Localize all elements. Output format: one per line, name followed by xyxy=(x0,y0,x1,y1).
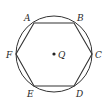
center-label-q: Q xyxy=(58,50,66,60)
center-point xyxy=(52,52,55,55)
vertex-label-f: F xyxy=(5,50,13,60)
vertex-label-a: A xyxy=(23,13,31,23)
vertex-label-e: E xyxy=(26,89,34,99)
hexagon-circle-diagram: A B C D E F Q xyxy=(0,0,104,102)
vertex-label-c: C xyxy=(95,50,102,60)
vertex-label-d: D xyxy=(75,89,83,99)
vertex-label-b: B xyxy=(76,13,84,23)
